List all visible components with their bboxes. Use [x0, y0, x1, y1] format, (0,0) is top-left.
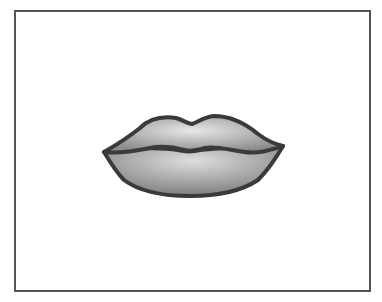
lips-icon — [0, 0, 382, 302]
upper-lip — [104, 116, 283, 153]
